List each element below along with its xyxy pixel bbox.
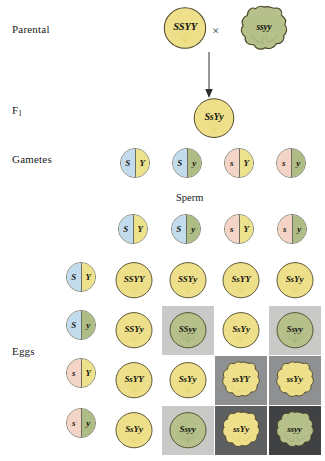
- label-gametes: Gametes: [12, 153, 52, 165]
- egg-gamete-sy: s y: [66, 408, 96, 438]
- seed-Ssyy: Ssyy: [168, 411, 208, 449]
- genotype-text: SSyy: [179, 325, 197, 334]
- gamete-allele-left: s: [277, 149, 292, 177]
- label-parental: Parental: [12, 23, 50, 35]
- seed-SSYY: SSYY: [162, 6, 208, 50]
- seed-SsYy: SsYy: [275, 261, 315, 299]
- gamete-allele-left: S: [173, 149, 188, 177]
- gamete-allele-right: Y: [240, 149, 254, 177]
- gamete-allele-left: s: [67, 359, 82, 387]
- punnett-cell: SSYY: [108, 256, 160, 305]
- genotype-text: SSYy: [124, 325, 143, 334]
- seed-SsYy: SsYy: [114, 411, 154, 449]
- genotype-text: Ssyy: [179, 425, 195, 434]
- punnett-cell: Ssyy: [162, 406, 214, 455]
- gamete-Sy: S y: [172, 148, 202, 178]
- gamete-allele-left: s: [67, 409, 82, 437]
- genotype-text: SSYY: [173, 22, 197, 33]
- punnett-cell: Ssyy: [269, 306, 321, 355]
- gamete-allele-left: s: [225, 149, 240, 177]
- gamete-allele-right: Y: [82, 359, 96, 387]
- cross-symbol: ×: [212, 23, 219, 39]
- punnett-cell: SSYy: [108, 306, 160, 355]
- punnett-grid: SSYY SSYy SsYY SsYy SSYy: [108, 256, 322, 456]
- gamete-allele-left: s: [225, 215, 240, 243]
- genotype-text: SsYY: [124, 375, 143, 384]
- egg-gamete-sY: s Y: [66, 358, 96, 388]
- gamete-sY: s Y: [224, 148, 254, 178]
- genotype-text: SsYY: [231, 275, 250, 284]
- seed-Ssyy: Ssyy: [275, 311, 315, 349]
- sperm-gamete-sy: s y: [277, 214, 307, 244]
- punnett-square-diagram: Parental F1 Gametes Eggs Sperm SSYY × ss…: [0, 0, 325, 461]
- seed-SsYy: SsYy: [168, 361, 208, 399]
- genotype-text: SsYy: [286, 275, 304, 284]
- genotype-text: ssYY: [232, 375, 250, 384]
- seed-ssYy: ssYy: [274, 360, 316, 400]
- gamete-allele-left: S: [172, 215, 187, 243]
- seed-SSYY: SSYY: [114, 261, 154, 299]
- seed-SsYy: SsYy: [192, 97, 236, 139]
- gamete-SY: S Y: [120, 148, 150, 178]
- seed-ssyy: ssyy: [238, 4, 290, 54]
- gamete-allele-right: y: [188, 149, 202, 177]
- gamete-allele-right: y: [82, 409, 96, 437]
- gamete-allele-right: y: [292, 149, 306, 177]
- label-eggs: Eggs: [12, 345, 35, 357]
- gamete-allele-left: S: [119, 215, 134, 243]
- punnett-cell: SsYy: [269, 256, 321, 305]
- sperm-gamete-Sy: S y: [171, 214, 201, 244]
- genotype-text: Ssyy: [286, 325, 302, 334]
- gamete-allele-right: Y: [136, 149, 150, 177]
- gamete-allele-right: Y: [134, 215, 148, 243]
- gamete-allele-right: Y: [82, 263, 96, 291]
- gamete-allele-left: s: [278, 215, 293, 243]
- genotype-text: SsYy: [179, 375, 197, 384]
- punnett-cell: SsYY: [108, 356, 160, 405]
- punnett-cell: SsYy: [215, 306, 267, 355]
- punnett-cell: SsYY: [215, 256, 267, 305]
- gamete-allele-right: y: [293, 215, 307, 243]
- seed-ssYY: ssYY: [220, 360, 262, 400]
- label-f1: F1: [12, 104, 22, 116]
- gamete-allele-left: S: [67, 263, 82, 291]
- seed-SsYY: SsYY: [221, 261, 261, 299]
- seed-SsYY: SsYY: [114, 361, 154, 399]
- seed-SsYy: SsYy: [221, 311, 261, 349]
- parental-seed-ssyy-dominant: SSYY: [162, 6, 208, 50]
- egg-gamete-Sy: S y: [66, 310, 96, 340]
- genotype-text: ssYy: [286, 375, 302, 384]
- genotype-text: SsYy: [232, 325, 250, 334]
- genotype-text: ssyy: [256, 24, 271, 34]
- punnett-cell: ssyy: [269, 406, 321, 455]
- f1-seed-ssyy: SsYy: [192, 97, 236, 139]
- label-sperm: Sperm: [176, 192, 203, 203]
- sperm-gamete-SY: S Y: [118, 214, 148, 244]
- punnett-cell: SsYy: [162, 356, 214, 405]
- gamete-allele-right: y: [82, 311, 96, 339]
- punnett-cell: ssYY: [215, 356, 267, 405]
- punnett-cell: SsYy: [108, 406, 160, 455]
- gamete-allele-left: S: [121, 149, 136, 177]
- genotype-text: ssYy: [233, 425, 249, 434]
- gamete-allele-right: Y: [240, 215, 254, 243]
- gamete-allele-right: y: [187, 215, 201, 243]
- arrow-down-icon: [200, 52, 218, 100]
- seed-SSyy: SSyy: [168, 311, 208, 349]
- genotype-text: ssyy: [287, 425, 302, 434]
- seed-ssYy: ssYy: [220, 410, 262, 450]
- genotype-text: SsYy: [204, 113, 223, 123]
- punnett-cell: SSYy: [162, 256, 214, 305]
- egg-gamete-SY: S Y: [66, 262, 96, 292]
- seed-SSYy: SSYy: [168, 261, 208, 299]
- gamete-sy: s y: [276, 148, 306, 178]
- sperm-gamete-sY: s Y: [224, 214, 254, 244]
- gamete-allele-left: S: [67, 311, 82, 339]
- genotype-text: SsYy: [125, 425, 143, 434]
- genotype-text: SSYY: [124, 275, 145, 284]
- label-f1-subscript: 1: [18, 109, 22, 118]
- seed-ssyy: ssyy: [274, 410, 316, 450]
- seed-SSYy: SSYy: [114, 311, 154, 349]
- punnett-cell: ssYy: [269, 356, 321, 405]
- genotype-text: SSYy: [178, 275, 197, 284]
